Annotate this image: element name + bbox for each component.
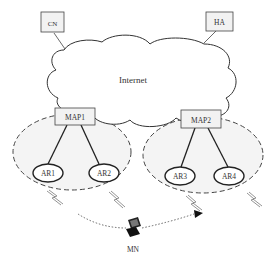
map2-label: MAP2 (191, 116, 211, 125)
ha-label: HA (214, 18, 225, 27)
laptop-icon (126, 217, 141, 237)
cn-internet-link (54, 33, 65, 49)
mn-movement-path (142, 214, 194, 228)
internet-label: Internet (119, 75, 147, 85)
mn-movement-path (78, 214, 126, 228)
ar2-label: AR2 (97, 169, 111, 178)
mn-label: MN (127, 245, 140, 254)
wireless-signal-icon (47, 190, 63, 205)
ar1-label: AR1 (41, 169, 55, 178)
cn-label: CN (48, 20, 58, 28)
wireless-signal-icon (109, 191, 125, 208)
ar3-label: AR3 (173, 172, 187, 181)
wireless-signal-icon (247, 192, 262, 207)
network-diagram: Internet CN HA MAP1 MAP2 AR1 AR2 AR3 AR4 (0, 0, 274, 265)
ar4-label: AR4 (222, 172, 236, 181)
map1-label: MAP1 (65, 113, 85, 122)
ha-internet-link (204, 31, 216, 43)
arrowhead-icon (194, 210, 203, 218)
wireless-signal-icon (186, 195, 202, 211)
